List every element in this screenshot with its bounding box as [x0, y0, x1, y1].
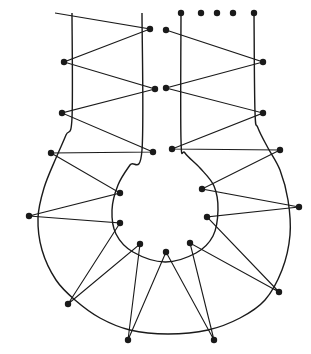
lacing-dot: [65, 301, 71, 307]
lacing-dot: [147, 26, 153, 32]
lacing-dot: [199, 186, 205, 192]
lacing-dot: [137, 241, 143, 247]
lacing-dot: [117, 190, 123, 196]
lacing-dot: [204, 214, 210, 220]
lacing-dot: [61, 59, 67, 65]
lacing-dot: [150, 149, 156, 155]
lacing-dot: [125, 337, 131, 343]
zigzag-thread: [29, 13, 299, 340]
lacing-dot: [26, 213, 32, 219]
lacing-dot: [152, 86, 158, 92]
lacing-dot: [260, 110, 266, 116]
lacing-dot: [198, 10, 204, 16]
diagram-canvas: [0, 0, 311, 354]
lacing-dot: [277, 147, 283, 153]
lacing-dot: [296, 204, 302, 210]
lacing-dot: [230, 10, 236, 16]
lacing-dot: [251, 10, 257, 16]
lacing-dot: [59, 110, 65, 116]
lacing-dot: [276, 289, 282, 295]
lacing-dot: [163, 85, 169, 91]
lacing-dot: [178, 10, 184, 16]
lacing-dot: [187, 240, 193, 246]
lacing-dot: [169, 146, 175, 152]
lacing-dot: [163, 249, 169, 255]
lacing-dot: [260, 59, 266, 65]
lacing-dot: [48, 150, 54, 156]
lacing-dot: [211, 337, 217, 343]
outer-outline: [38, 13, 290, 334]
lacing-dot: [163, 27, 169, 33]
lacing-dot: [117, 220, 123, 226]
lacing-dot: [214, 10, 220, 16]
lacing-diagram: [0, 0, 311, 354]
